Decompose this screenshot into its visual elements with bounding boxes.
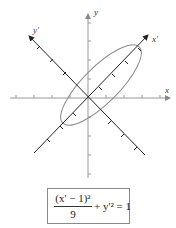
x-prime-axis-label: x'	[152, 34, 158, 44]
equation-fraction: (x' − 1)² 9	[54, 192, 92, 221]
equation-rest: + y'² = 1	[94, 200, 131, 212]
equation-numerator: (x' − 1)²	[54, 192, 92, 205]
equation-denominator: 9	[54, 208, 92, 221]
x-axis-label: x	[165, 85, 169, 95]
equation-box: (x' − 1)² 9 + y'² = 1	[47, 188, 130, 224]
x-prime-axis	[34, 35, 148, 153]
y-axis-label: y	[94, 7, 98, 17]
y-prime-axis	[29, 36, 145, 155]
y-prime-axis-label: y'	[33, 25, 39, 35]
fraction-bar	[54, 206, 92, 207]
